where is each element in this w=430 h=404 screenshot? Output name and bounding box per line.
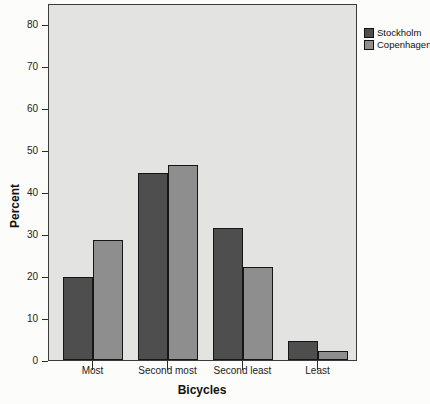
legend-label: Copenhagen [377,39,430,50]
copenhagen-swatch-icon [364,40,374,50]
y-tick [42,277,48,278]
legend-item-stockholm: Stockholm [364,27,430,38]
stockholm-swatch-icon [364,28,374,38]
y-tick-label: 80 [0,19,38,30]
y-tick [42,151,48,152]
bar-stockholm-most [63,277,93,360]
bar-copenhagen-least [318,351,348,360]
legend: Stockholm Copenhagen [364,27,430,51]
y-tick [42,25,48,26]
x-category-label: Least [273,365,363,376]
y-tick-label: 10 [0,313,38,324]
y-tick-label: 70 [0,61,38,72]
legend-item-copenhagen: Copenhagen [364,39,430,50]
y-tick [42,109,48,110]
y-tick [42,67,48,68]
y-tick [42,193,48,194]
y-tick-label: 30 [0,229,38,240]
x-axis-title: Bicycles [152,383,252,397]
y-tick-label: 0 [0,355,38,366]
bar-stockholm-least [288,341,318,360]
y-tick-label: 20 [0,271,38,282]
y-tick [42,235,48,236]
y-tick [42,319,48,320]
bar-chart: Percent Bicycles Stockholm Copenhagen 01… [0,0,430,404]
bar-copenhagen-second-most [168,165,198,360]
bar-copenhagen-second-least [243,267,273,360]
bar-stockholm-second-most [138,173,168,360]
bar-copenhagen-most [93,240,123,360]
y-tick-label: 40 [0,187,38,198]
y-tick-label: 60 [0,103,38,114]
y-tick [42,361,48,362]
bar-stockholm-second-least [213,228,243,360]
legend-label: Stockholm [377,27,421,38]
y-tick-label: 50 [0,145,38,156]
